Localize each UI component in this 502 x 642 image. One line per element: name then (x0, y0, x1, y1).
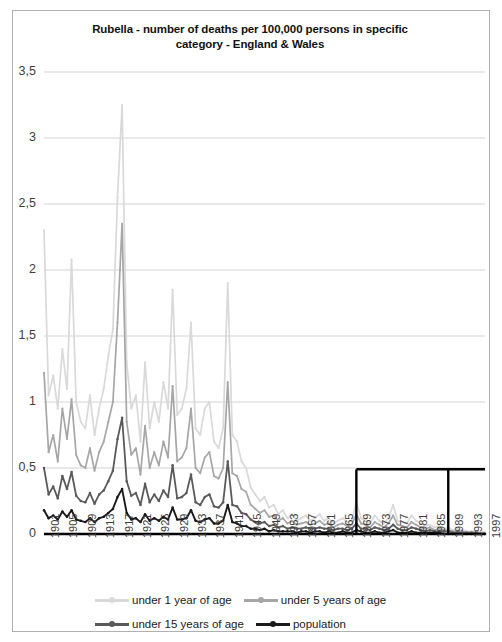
data-point (199, 472, 201, 474)
data-point (71, 258, 73, 260)
data-point (121, 223, 123, 225)
data-point (121, 417, 124, 420)
data-point (107, 355, 109, 357)
data-point (135, 517, 138, 520)
data-point (222, 427, 224, 429)
data-point (429, 526, 431, 528)
x-axis-tick-label: 1957 (306, 514, 318, 538)
data-point (208, 493, 211, 496)
data-point (126, 421, 128, 423)
data-point (167, 456, 169, 458)
data-point (227, 504, 230, 507)
x-axis-tick-label: 1945 (251, 514, 263, 538)
x-axis-tick-label: 1909 (86, 514, 98, 538)
data-point (236, 441, 238, 443)
data-point (167, 408, 169, 410)
data-point (199, 434, 201, 436)
data-point (70, 471, 73, 474)
data-point (149, 427, 151, 429)
x-axis-tick-label: 1937 (214, 514, 226, 538)
data-point (80, 500, 83, 503)
y-axis-tick-label: 1 (2, 394, 36, 408)
data-point (213, 505, 216, 508)
data-point (153, 401, 155, 403)
data-point (116, 196, 118, 198)
legend-item-under-5-years-of-age[interactable]: under 5 years of age (244, 594, 387, 606)
data-point (61, 475, 64, 478)
data-point (43, 509, 46, 512)
legend-swatch-icon (256, 619, 290, 629)
data-point (337, 524, 339, 526)
y-axis-tick-label: 1,5 (2, 328, 36, 342)
data-point (263, 527, 266, 530)
data-point (52, 375, 54, 377)
data-point (190, 473, 193, 476)
data-point (318, 526, 321, 529)
data-point (103, 388, 105, 390)
data-point (125, 480, 128, 483)
data-point (61, 408, 63, 410)
data-point (93, 434, 95, 436)
chart-container: Rubella - number of deaths per 100,000 p… (0, 0, 502, 642)
data-point (149, 467, 151, 469)
data-point (84, 467, 86, 469)
data-point (98, 493, 101, 496)
legend-item-under-15-years-of-age[interactable]: under 15 years of age (95, 618, 244, 630)
data-point (282, 509, 284, 511)
legend-row: under 15 years of agepopulation (95, 612, 495, 636)
data-point (93, 502, 96, 505)
data-point (112, 401, 114, 403)
data-point (158, 421, 160, 423)
legend-row: under 1 year of ageunder 5 years of age (95, 588, 495, 612)
legend-item-population[interactable]: population (256, 618, 346, 630)
data-point (167, 496, 170, 499)
data-point (208, 401, 210, 403)
data-point (52, 434, 54, 436)
data-point (176, 460, 178, 462)
x-axis-tick-label: 1941 (233, 514, 245, 538)
x-axis-tick-label: 1961 (325, 514, 337, 538)
data-point (144, 361, 146, 363)
data-point (84, 427, 86, 429)
data-point (66, 488, 69, 491)
data-point (130, 408, 132, 410)
data-point (43, 372, 45, 374)
data-point (107, 480, 110, 483)
data-point (181, 408, 183, 410)
data-point (231, 504, 234, 507)
x-axis-tick-label: 1977 (398, 514, 410, 538)
data-point (130, 494, 133, 497)
legend-label: population (293, 618, 346, 630)
gridlines (44, 72, 485, 534)
data-point (98, 408, 100, 410)
legend-item-under-1-year-of-age[interactable]: under 1 year of age (95, 594, 232, 606)
x-axis-tick-label: 1969 (361, 514, 373, 538)
data-point (374, 514, 376, 516)
data-point (121, 488, 124, 491)
data-point (240, 488, 242, 490)
data-point (410, 521, 412, 523)
data-point (300, 522, 302, 524)
data-point (227, 381, 229, 383)
data-point (208, 451, 210, 453)
x-axis-tick-label: 1981 (417, 514, 429, 538)
data-point (236, 505, 239, 508)
data-point (204, 408, 206, 410)
data-point (337, 527, 340, 530)
y-axis-tick-label: 3,5 (2, 64, 36, 78)
data-point (236, 475, 238, 477)
data-point (135, 447, 137, 449)
x-axis-tick-label: 1933 (196, 514, 208, 538)
data-point (337, 520, 339, 522)
data-point (158, 464, 160, 466)
data-point (112, 508, 115, 511)
data-point (195, 467, 197, 469)
data-point (429, 529, 432, 532)
data-point (153, 517, 156, 520)
data-point (273, 504, 275, 506)
data-point (102, 489, 105, 492)
data-point (158, 500, 161, 503)
data-point (139, 474, 141, 476)
data-point (204, 496, 207, 499)
legend-swatch-icon (244, 595, 278, 605)
